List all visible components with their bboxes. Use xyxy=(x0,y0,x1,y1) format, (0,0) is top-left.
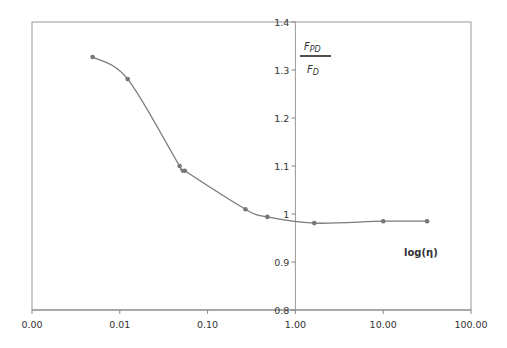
y-tick-label: 0.9 xyxy=(274,257,289,268)
y-tick-label: 1.2 xyxy=(274,113,289,124)
data-point xyxy=(243,207,248,212)
x-axis: 0.000.010.101.0010.00100.00 xyxy=(21,310,487,330)
data-point xyxy=(177,164,182,169)
y-tick-label: 1.3 xyxy=(274,65,289,76)
x-axis-title: log(η) xyxy=(404,247,438,258)
data-point xyxy=(425,219,430,224)
x-tick-label: 100.00 xyxy=(454,319,487,330)
data-point xyxy=(312,221,317,226)
data-point xyxy=(90,55,95,60)
y-tick-label: 1 xyxy=(283,209,289,220)
data-point xyxy=(265,215,270,220)
x-tick-label: 0.00 xyxy=(21,319,42,330)
y-axis-title: FPD FD xyxy=(300,41,331,77)
y-tick-label: 0.8 xyxy=(274,305,289,316)
y-tick-label: 1.1 xyxy=(274,161,289,172)
data-point xyxy=(381,219,386,224)
data-point xyxy=(125,77,130,82)
x-tick-label: 0.10 xyxy=(197,319,218,330)
y-tick-label: 1.4 xyxy=(274,17,289,28)
y-axis-title-denominator: FD xyxy=(307,64,319,77)
chart: 0.000.010.101.0010.00100.00 0.80.911.11.… xyxy=(0,0,507,348)
series-line xyxy=(93,57,427,223)
x-tick-label: 0.01 xyxy=(109,319,130,330)
data-point xyxy=(183,169,188,174)
y-axis: 0.80.911.11.21.31.4 xyxy=(274,17,295,316)
y-axis-title-numerator: FPD xyxy=(304,41,321,54)
data-markers xyxy=(90,55,429,226)
x-tick-label: 10.00 xyxy=(370,319,397,330)
x-tick-label: 1.00 xyxy=(285,319,306,330)
plot-frame xyxy=(32,22,471,310)
